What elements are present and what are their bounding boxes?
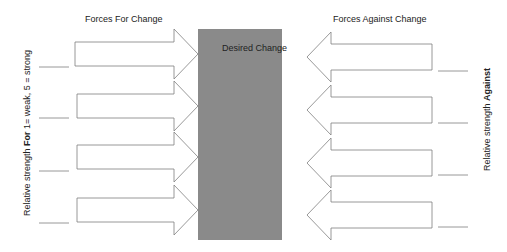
left-label-pre: Relative strength [22, 146, 32, 216]
force-for-arrow-2[interactable] [77, 81, 198, 131]
left-strength-label: Relative strength For 1= weak, 5 = stron… [22, 50, 32, 216]
force-against-arrow-3[interactable] [307, 138, 432, 188]
forces-for-title: Forces For Change [85, 14, 163, 24]
right-label-pre: Relative strength [482, 101, 492, 171]
force-against-arrow-4[interactable] [307, 190, 432, 240]
left-label-bold: For [22, 131, 32, 146]
forces-against-title: Forces Against Change [333, 14, 427, 24]
desired-change-label: Desired Change [222, 43, 287, 53]
force-for-arrow-3[interactable] [77, 132, 198, 182]
right-label-bold: Against [482, 68, 492, 101]
left-label-post: 1= weak, 5 = strong [22, 50, 32, 132]
force-for-arrow-1[interactable] [75, 29, 198, 79]
right-strength-label: Relative strength Against [482, 68, 492, 171]
force-for-arrow-4[interactable] [77, 185, 198, 235]
desired-change-box [198, 29, 282, 240]
force-against-arrow-2[interactable] [307, 85, 432, 135]
force-field-diagram [0, 0, 507, 252]
force-against-arrow-1[interactable] [307, 32, 432, 82]
